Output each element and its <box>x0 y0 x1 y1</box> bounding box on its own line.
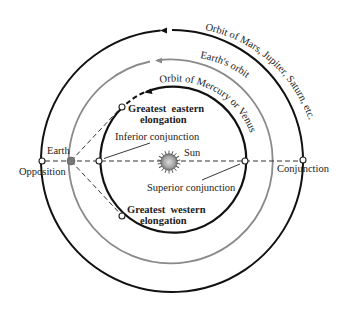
earth-label: Earth <box>47 145 70 156</box>
opposition-label: Opposition <box>19 166 66 177</box>
superior-conjunction-label: Superior conjunction <box>147 182 236 193</box>
greatest-western-elongation-label-line2: elongation <box>140 215 187 226</box>
planetary-configuration-diagram: Orbit of Mars, Jupiter, Saturn, etc. Ear… <box>0 0 347 310</box>
earth-marker <box>67 157 75 165</box>
greatest-eastern-elongation-label-line1: Greatest eastern <box>128 103 204 114</box>
greatest-eastern-elongation-label-line2: elongation <box>140 114 187 125</box>
greatest-western-elongation-marker <box>119 213 125 219</box>
sun <box>158 151 181 174</box>
inferior-conjunction-label: Inferior conjunction <box>115 131 200 142</box>
earth-orbit-arrow-icon <box>155 58 162 64</box>
inferior-conjunction-marker <box>96 158 102 164</box>
greatest-eastern-elongation-marker <box>119 104 125 110</box>
outer-orbit-arrow-icon <box>160 28 167 34</box>
greatest-western-elongation-label-line1: Greatest western <box>127 204 206 215</box>
conjunction-label: Conjunction <box>277 163 330 174</box>
opposition-marker <box>39 158 45 164</box>
sun-label: Sun <box>184 147 201 158</box>
superior-conjunction-marker <box>242 158 248 164</box>
